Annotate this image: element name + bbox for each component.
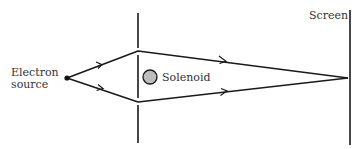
solenoid-label: Solenoid <box>162 72 210 84</box>
screen-label: Screen <box>309 10 348 22</box>
electron-source-label: Electron source <box>11 67 59 91</box>
electron-source-label-line2: source <box>11 79 59 91</box>
diagram-canvas: Electron source Solenoid Screen <box>0 0 363 149</box>
electron-source-dot <box>64 75 69 80</box>
solenoid-circle <box>143 70 157 84</box>
